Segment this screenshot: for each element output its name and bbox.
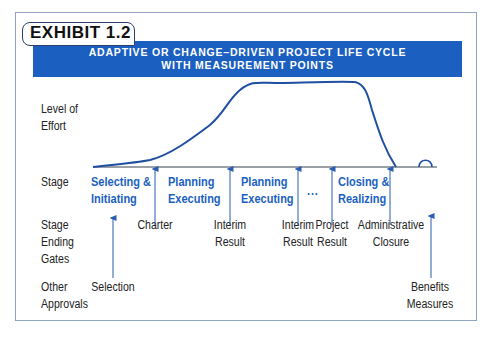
exhibit-label: EXHIBIT 1.2 [30,23,131,43]
effort-curve [93,82,396,167]
title-line-1: ADAPTIVE OR CHANGE–DRIVEN PROJECT LIFE C… [33,46,462,59]
title-line-2: WITH MEASUREMENT POINTS [33,59,462,72]
benefits-bump [419,160,432,167]
title-banner: ADAPTIVE OR CHANGE–DRIVEN PROJECT LIFE C… [33,41,462,77]
